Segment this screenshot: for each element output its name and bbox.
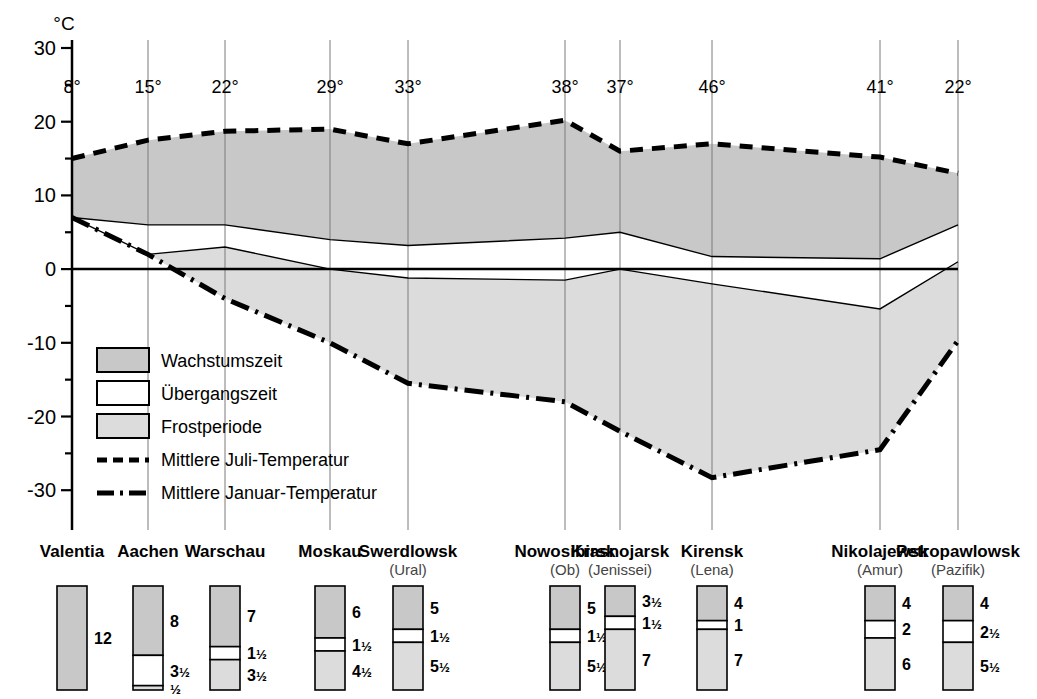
- y-tick-label: -10: [27, 332, 56, 354]
- amplitude-label-warschau: 22°: [211, 77, 238, 97]
- bar-value-petropawlowsk-0: 4: [980, 595, 989, 612]
- legend-label-3: Mittlere Juli-Temperatur: [161, 450, 349, 470]
- bar-segment-swerdlowsk-wachstumszeit: [393, 586, 423, 629]
- legend-label-4: Mittlere Januar-Temperatur: [161, 483, 377, 503]
- bar-value-aachen-1: 3½: [170, 663, 190, 680]
- legend-label-0: Wachstumszeit: [161, 351, 282, 371]
- bar-value-warschau-1: 1½: [247, 645, 267, 662]
- bar-value-petropawlowsk-1: 2½: [980, 624, 1000, 641]
- station-name-moskau: Moskau: [298, 542, 361, 561]
- bar-segment-nowosibirsk-frostperiode: [550, 642, 580, 690]
- y-tick-label: 20: [34, 111, 56, 133]
- climate-chart-figure: 3020100-10-20-30°C 8°15°22°29°33°38°37°4…: [0, 0, 1037, 699]
- bar-segment-valentia-wachstumszeit: [57, 586, 87, 690]
- amplitude-label-valentia: 8°: [63, 77, 80, 97]
- y-tick-label: 10: [34, 184, 56, 206]
- bar-segment-nowosibirsk-übergangszeit: [550, 629, 580, 642]
- legend-swatch-2: [97, 414, 149, 438]
- station-name-petropawlowsk: Petropawlowsk: [896, 542, 1020, 561]
- bar-segment-petropawlowsk-wachstumszeit: [943, 586, 973, 621]
- bar-value-moskau-1: 1½: [352, 637, 372, 654]
- amplitude-label-aachen: 15°: [134, 77, 161, 97]
- station-river-nowosibirsk: (Ob): [550, 561, 580, 578]
- station-river-kirensk: (Lena): [690, 561, 733, 578]
- bar-value-moskau-2: 4½: [352, 663, 372, 680]
- bar-segment-kirensk-übergangszeit: [697, 621, 727, 630]
- chart-svg: 3020100-10-20-30°C 8°15°22°29°33°38°37°4…: [0, 0, 1037, 699]
- bar-value-kirensk-2: 7: [734, 652, 743, 669]
- bar-value-valentia-0: 12: [94, 630, 112, 647]
- y-tick-label: -20: [27, 406, 56, 428]
- bar-segment-nikolajewsk-frostperiode: [865, 638, 895, 690]
- bar-value-krasnojarsk-2: 7: [642, 652, 651, 669]
- station-bars-group: Valentia12Aachen83½½Warschau71½3½Moskau6…: [40, 542, 1021, 697]
- station-name-valentia: Valentia: [40, 542, 105, 561]
- legend-label-2: Frostperiode: [161, 417, 262, 437]
- top-tick-labels-group: 8°15°22°29°33°38°37°46°41°22°: [63, 77, 971, 97]
- bar-segment-moskau-frostperiode: [315, 651, 345, 690]
- bar-segment-kirensk-frostperiode: [697, 629, 727, 690]
- bar-value-krasnojarsk-1: 1½: [642, 615, 662, 632]
- bar-value-petropawlowsk-2: 5½: [980, 658, 1000, 675]
- station-name-warschau: Warschau: [185, 542, 266, 561]
- bar-value-kirensk-1: 1: [734, 617, 743, 634]
- bar-segment-petropawlowsk-übergangszeit: [943, 621, 973, 643]
- y-tick-label: 0: [45, 258, 56, 280]
- bar-value-nowosibirsk-2: 5½: [587, 658, 607, 675]
- bar-value-swerdlowsk-2: 5½: [430, 658, 450, 675]
- station-river-swerdlowsk: (Ural): [389, 561, 427, 578]
- bar-segment-krasnojarsk-frostperiode: [605, 629, 635, 690]
- bar-segment-nikolajewsk-wachstumszeit: [865, 586, 895, 621]
- bar-segment-krasnojarsk-wachstumszeit: [605, 586, 635, 616]
- bar-segment-kirensk-wachstumszeit: [697, 586, 727, 621]
- y-axis-unit-label: °C: [53, 13, 74, 34]
- bar-segment-warschau-übergangszeit: [210, 647, 240, 660]
- bar-value-aachen-0: 8: [170, 613, 179, 630]
- amplitude-label-petropawlowsk: 22°: [944, 77, 971, 97]
- station-river-nikolajewsk: (Amur): [857, 561, 903, 578]
- bar-segment-nikolajewsk-übergangszeit: [865, 621, 895, 638]
- legend-label-1: Übergangszeit: [161, 384, 277, 404]
- amplitude-label-nikolajewsk: 41°: [866, 77, 893, 97]
- bar-segment-moskau-wachstumszeit: [315, 586, 345, 638]
- legend-swatch-0: [97, 348, 149, 372]
- amplitude-label-swerdlowsk: 33°: [394, 77, 421, 97]
- bar-segment-aachen-übergangszeit: [133, 655, 163, 685]
- bar-segment-warschau-frostperiode: [210, 660, 240, 690]
- bar-value-nowosibirsk-1: 1½: [587, 628, 607, 645]
- amplitude-label-krasnojarsk: 37°: [606, 77, 633, 97]
- station-river-petropawlowsk: (Pazifik): [931, 561, 985, 578]
- bar-segment-aachen-wachstumszeit: [133, 586, 163, 655]
- station-name-krasnojarsk: Krasnojarsk: [571, 542, 670, 561]
- bar-segment-petropawlowsk-frostperiode: [943, 642, 973, 690]
- bar-value-nowosibirsk-0: 5: [587, 600, 596, 617]
- bar-value-warschau-2: 3½: [247, 667, 267, 684]
- bar-value-warschau-0: 7: [247, 608, 256, 625]
- bar-segment-swerdlowsk-frostperiode: [393, 642, 423, 690]
- station-river-krasnojarsk: (Jenissei): [588, 561, 652, 578]
- amplitude-label-kirensk: 46°: [698, 77, 725, 97]
- bar-value-nikolajewsk-1: 2: [902, 621, 911, 638]
- bar-value-kirensk-0: 4: [734, 595, 743, 612]
- bar-value-aachen-2: ½: [170, 682, 181, 697]
- legend-group: WachstumszeitÜbergangszeitFrostperiodeMi…: [97, 348, 377, 503]
- station-name-kirensk: Kirensk: [681, 542, 744, 561]
- bar-value-nikolajewsk-0: 4: [902, 595, 911, 612]
- y-tick-label: -30: [27, 479, 56, 501]
- bar-segment-nowosibirsk-wachstumszeit: [550, 586, 580, 629]
- amplitude-label-nowosibirsk: 38°: [551, 77, 578, 97]
- y-tick-label: 30: [34, 37, 56, 59]
- bar-segment-krasnojarsk-übergangszeit: [605, 616, 635, 629]
- bar-value-swerdlowsk-0: 5: [430, 600, 439, 617]
- amplitude-label-moskau: 29°: [316, 77, 343, 97]
- legend-swatch-1: [97, 381, 149, 405]
- bar-value-swerdlowsk-1: 1½: [430, 628, 450, 645]
- bar-segment-moskau-übergangszeit: [315, 638, 345, 651]
- bar-value-moskau-0: 6: [352, 604, 361, 621]
- bar-value-nikolajewsk-2: 6: [902, 656, 911, 673]
- bar-segment-swerdlowsk-übergangszeit: [393, 629, 423, 642]
- station-name-aachen: Aachen: [117, 542, 178, 561]
- bar-segment-warschau-wachstumszeit: [210, 586, 240, 647]
- bar-segment-aachen-frostperiode: [133, 686, 163, 690]
- station-name-swerdlowsk: Swerdlowsk: [359, 542, 458, 561]
